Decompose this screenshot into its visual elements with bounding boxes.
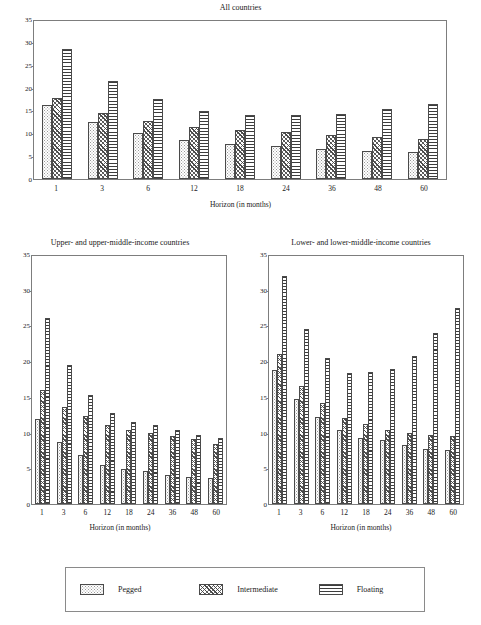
bar-pegged-3 bbox=[88, 122, 98, 179]
x-tick-label: 48 bbox=[355, 184, 401, 193]
bar-group bbox=[133, 21, 163, 179]
legend-entry-intermediate: Intermediate bbox=[185, 584, 304, 595]
bar-floating-36 bbox=[336, 114, 346, 179]
bar-pegged-12 bbox=[179, 140, 189, 179]
x-tick-label: 1 bbox=[33, 184, 79, 193]
y-tick-label: 30 bbox=[14, 287, 30, 294]
bar-floating-48 bbox=[433, 333, 438, 504]
bar-pegged-48 bbox=[362, 151, 372, 179]
y-tick-label: 20 bbox=[251, 359, 267, 366]
bar-group bbox=[362, 21, 392, 179]
chart-legend: PeggedIntermediateFloating bbox=[65, 567, 425, 612]
x-axis-lower-income: 136121824364860 bbox=[268, 508, 464, 517]
bar-floating-12 bbox=[347, 373, 352, 504]
bar-pegged-6 bbox=[133, 133, 143, 179]
x-axis-label-upper-income: Horizon (in months) bbox=[0, 523, 240, 532]
bar-intermediate-3 bbox=[98, 113, 108, 179]
y-tick-label: 15 bbox=[251, 394, 267, 401]
x-tick-label: 3 bbox=[290, 508, 312, 517]
plot-area-upper-income bbox=[31, 255, 227, 505]
chart-title-lower-income: Lower- and lower-middle-income countries bbox=[241, 238, 481, 248]
bar-group bbox=[272, 256, 287, 504]
y-axis-all-countries: 05101520253035 bbox=[12, 20, 32, 180]
y-tick-label: 15 bbox=[14, 394, 30, 401]
legend-label-intermediate: Intermediate bbox=[237, 585, 277, 595]
y-tick-label: 5 bbox=[251, 466, 267, 473]
x-tick-label: 6 bbox=[125, 184, 171, 193]
bar-group bbox=[271, 21, 301, 179]
bar-group bbox=[445, 256, 460, 504]
plot-area-lower-income bbox=[268, 255, 464, 505]
bar-group bbox=[143, 256, 158, 504]
chart-title-all-countries: All countries bbox=[0, 3, 481, 13]
bar-intermediate-6 bbox=[143, 121, 153, 180]
x-axis-label-lower-income: Horizon (in months) bbox=[241, 523, 481, 532]
bar-floating-24 bbox=[291, 115, 301, 179]
bar-intermediate-60 bbox=[418, 139, 428, 179]
y-tick-label: 5 bbox=[14, 466, 30, 473]
bar-floating-48 bbox=[382, 109, 392, 179]
bar-pegged-24 bbox=[271, 146, 281, 179]
bar-floating-18 bbox=[368, 372, 373, 504]
bar-group bbox=[42, 21, 72, 179]
x-axis-upper-income: 136121824364860 bbox=[31, 508, 227, 517]
bar-floating-3 bbox=[108, 81, 118, 179]
bar-group bbox=[100, 256, 115, 504]
x-tick-label: 24 bbox=[140, 508, 162, 517]
y-axis-upper-income: 05101520253035 bbox=[10, 255, 30, 505]
bar-floating-1 bbox=[62, 49, 72, 179]
y-tick-label: 35 bbox=[16, 17, 32, 24]
bar-group bbox=[316, 21, 346, 179]
y-tick-label: 30 bbox=[251, 287, 267, 294]
x-tick-label: 24 bbox=[263, 184, 309, 193]
x-tick-label: 36 bbox=[309, 184, 355, 193]
y-tick-label: 25 bbox=[14, 323, 30, 330]
bar-group bbox=[225, 21, 255, 179]
bar-group bbox=[358, 256, 373, 504]
bar-floating-60 bbox=[428, 104, 438, 179]
y-tick-label: 25 bbox=[16, 62, 32, 69]
x-tick-label: 18 bbox=[217, 184, 263, 193]
bar-floating-60 bbox=[218, 438, 223, 504]
bar-pegged-36 bbox=[316, 149, 326, 179]
bar-group bbox=[315, 256, 330, 504]
bar-floating-3 bbox=[304, 329, 309, 504]
bar-intermediate-24 bbox=[281, 132, 291, 179]
bar-floating-36 bbox=[412, 356, 417, 504]
y-tick-label: 5 bbox=[16, 154, 32, 161]
bar-group bbox=[165, 256, 180, 504]
bar-group bbox=[121, 256, 136, 504]
bar-group bbox=[78, 256, 93, 504]
bar-group bbox=[423, 256, 438, 504]
chart-panel-all-countries: All countries 05101520253035 13612182436… bbox=[0, 0, 481, 220]
bar-group bbox=[380, 256, 395, 504]
bar-pegged-60 bbox=[408, 152, 418, 179]
bar-floating-1 bbox=[45, 318, 50, 504]
bar-group bbox=[57, 256, 72, 504]
bar-group bbox=[186, 256, 201, 504]
y-tick-label: 20 bbox=[16, 85, 32, 92]
bar-floating-24 bbox=[390, 369, 395, 504]
y-tick-label: 0 bbox=[16, 177, 32, 184]
bar-floating-12 bbox=[110, 413, 115, 504]
x-tick-label: 12 bbox=[333, 508, 355, 517]
legend-entry-pegged: Pegged bbox=[66, 584, 185, 595]
x-tick-label: 24 bbox=[377, 508, 399, 517]
legend-label-floating: Floating bbox=[357, 585, 384, 595]
chart-title-upper-income: Upper- and upper-middle-income countries bbox=[0, 238, 240, 248]
y-axis-lower-income: 05101520253035 bbox=[247, 255, 267, 505]
bar-floating-36 bbox=[175, 430, 180, 504]
y-tick-label: 30 bbox=[16, 39, 32, 46]
x-axis-all-countries: 136121824364860 bbox=[33, 184, 447, 193]
x-tick-label: 36 bbox=[162, 508, 184, 517]
bar-groups-upper-income bbox=[32, 256, 226, 504]
x-tick-label: 60 bbox=[442, 508, 464, 517]
bar-floating-48 bbox=[196, 435, 201, 504]
bar-group bbox=[337, 256, 352, 504]
bar-floating-1 bbox=[282, 276, 287, 504]
x-tick-label: 48 bbox=[183, 508, 205, 517]
x-tick-label: 3 bbox=[53, 508, 75, 517]
bar-group bbox=[208, 256, 223, 504]
x-tick-label: 18 bbox=[118, 508, 140, 517]
x-axis-label-all-countries: Horizon (in months) bbox=[0, 200, 481, 209]
